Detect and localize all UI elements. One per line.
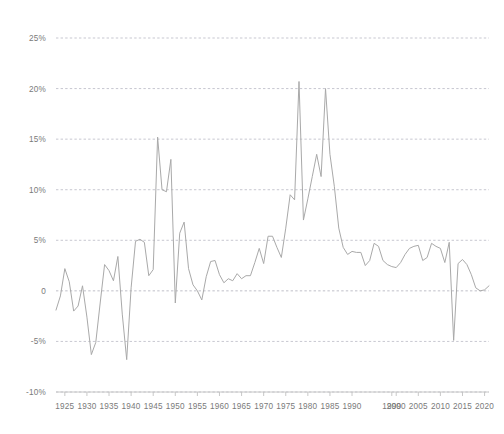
y-axis-tick-label: -5% xyxy=(31,337,46,346)
x-axis-tick-label: 1985 xyxy=(320,402,339,411)
data-series xyxy=(56,81,489,359)
x-axis-tick-label: 1945 xyxy=(144,402,163,411)
x-axis-tick-label: 2000 xyxy=(387,402,406,411)
x-axis-tick-label: 2010 xyxy=(431,402,450,411)
x-axis-tick-label: 1935 xyxy=(100,402,119,411)
x-axis-tick-label: 1950 xyxy=(166,402,185,411)
x-axis-tick-label: 2020 xyxy=(475,402,494,411)
x-axis-tick-label: 2005 xyxy=(409,402,428,411)
x-axis-tick-label: 1925 xyxy=(55,402,74,411)
x-axis-tick-label: 1940 xyxy=(122,402,141,411)
y-axis-tick-label: 10% xyxy=(29,186,46,195)
x-axis-tick-label: 2015 xyxy=(453,402,472,411)
line-chart: 25%20%15%10%5%0-5%-10% 19251930193519401… xyxy=(0,0,504,434)
data-line-annual-rate xyxy=(56,81,489,359)
chart-container: 25%20%15%10%5%0-5%-10% 19251930193519401… xyxy=(0,0,504,434)
x-axis-tick-label: 1990 xyxy=(343,402,362,411)
gridlines xyxy=(56,38,489,392)
x-axis-tick-label: 1960 xyxy=(210,402,229,411)
x-axis-tick-label: 1955 xyxy=(188,402,207,411)
x-axis-tick-label: 1980 xyxy=(298,402,317,411)
x-axis xyxy=(56,392,489,396)
y-axis-tick-label: 15% xyxy=(29,135,46,144)
x-axis-tick-label: 1965 xyxy=(232,402,251,411)
x-axis-tick-labels: 1925193019351940194519501955196019651970… xyxy=(55,402,494,411)
x-axis-tick-label: 1975 xyxy=(276,402,295,411)
y-axis-tick-label: 25% xyxy=(29,34,46,43)
y-axis-tick-label: 5% xyxy=(34,236,46,245)
y-axis-tick-label: -10% xyxy=(26,388,46,397)
y-axis-tick-label: 20% xyxy=(29,85,46,94)
y-axis-tick-label: 0 xyxy=(41,287,46,296)
y-axis-tick-labels: 25%20%15%10%5%0-5%-10% xyxy=(26,34,46,397)
x-axis-tick-label: 1970 xyxy=(254,402,273,411)
x-axis-tick-label: 1930 xyxy=(77,402,96,411)
